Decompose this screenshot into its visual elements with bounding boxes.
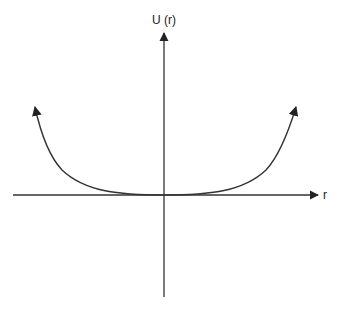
y-axis-label: U (r) — [152, 13, 176, 27]
potential-curve-left — [35, 107, 164, 195]
potential-curve-right — [164, 107, 296, 195]
x-axis-label: r — [323, 188, 327, 202]
potential-energy-diagram: U (r) r — [0, 0, 341, 313]
